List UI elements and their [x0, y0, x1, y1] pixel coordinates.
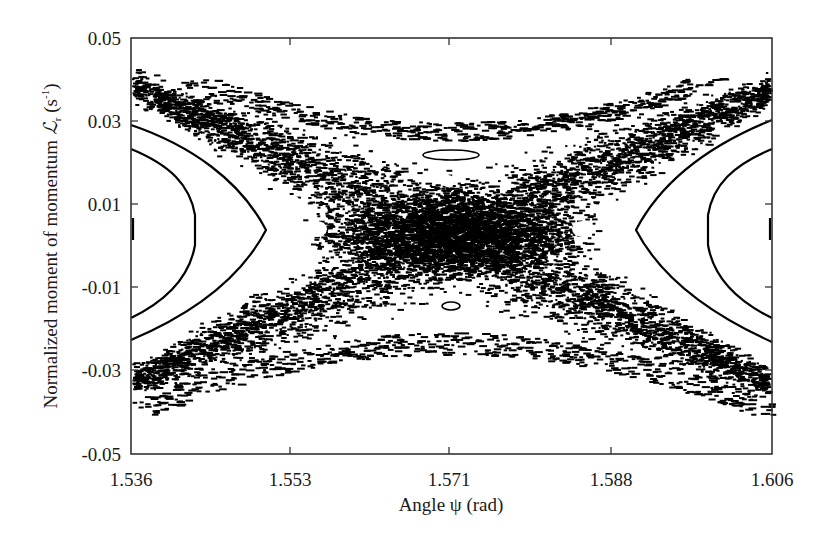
- y-tick-label: 0.01: [88, 194, 121, 215]
- x-tick-label: 1.606: [751, 469, 794, 490]
- y-axis-title: Normalized moment of momentum ℒr (s-1): [39, 84, 63, 409]
- x-tick-label: 1.553: [269, 469, 312, 490]
- y-axis-title-unit-open: (s: [40, 99, 62, 117]
- y-axis-title-unit-sup: -1: [39, 90, 51, 99]
- x-tick-label: 1.571: [428, 469, 471, 490]
- y-tick-label: 0.03: [88, 111, 121, 132]
- y-axis-title-main: Normalized moment of momentum: [40, 135, 61, 408]
- y-tick-label: -0.05: [81, 444, 121, 465]
- y-tick-label: 0.05: [88, 28, 121, 49]
- y-axis-title-unit-close: ): [40, 84, 62, 90]
- x-tick-label: 1.588: [590, 469, 633, 490]
- y-axis-title-symbol: ℒ: [40, 120, 61, 135]
- chart-background: [0, 0, 813, 539]
- phase-portrait-chart: 0.05 0.03 0.01 -0.01 -0.03 -0.05 1.536 1…: [0, 0, 813, 539]
- x-axis-title: Angle ψ (rad): [399, 494, 504, 516]
- y-tick-label: -0.03: [81, 360, 121, 381]
- y-tick-label: -0.01: [81, 277, 121, 298]
- x-tick-label: 1.536: [110, 469, 153, 490]
